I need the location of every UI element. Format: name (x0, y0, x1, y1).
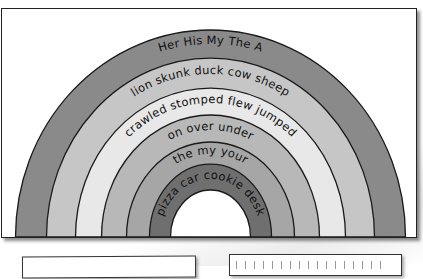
rainbow-graphic: Her His My The A lion skunk duck cow she… (1, 8, 417, 238)
answer-box-left (22, 255, 196, 278)
rainbow-card: Her His My The A lion skunk duck cow she… (1, 8, 417, 238)
cropped-text-line (236, 261, 386, 269)
answer-box-right (229, 254, 402, 276)
